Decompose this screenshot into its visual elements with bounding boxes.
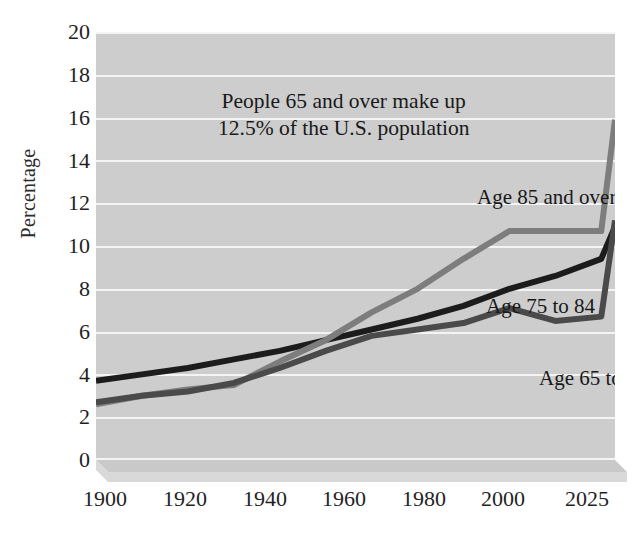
x-tick-1900: 1900 xyxy=(60,488,150,510)
x-tick-1960: 1960 xyxy=(299,488,389,510)
x-tick-1980: 1980 xyxy=(379,488,469,510)
x-tick-1920: 1920 xyxy=(140,488,230,510)
x-tick-1940: 1940 xyxy=(220,488,310,510)
x-axis-tick-labels: 1900 1920 1940 1960 1980 2000 2025 xyxy=(0,0,643,542)
chart-root: Percentage 20 18 16 14 12 10 8 6 4 2 0 P… xyxy=(0,0,643,542)
x-tick-2025: 2025 xyxy=(542,488,632,510)
x-tick-2000: 2000 xyxy=(458,488,548,510)
